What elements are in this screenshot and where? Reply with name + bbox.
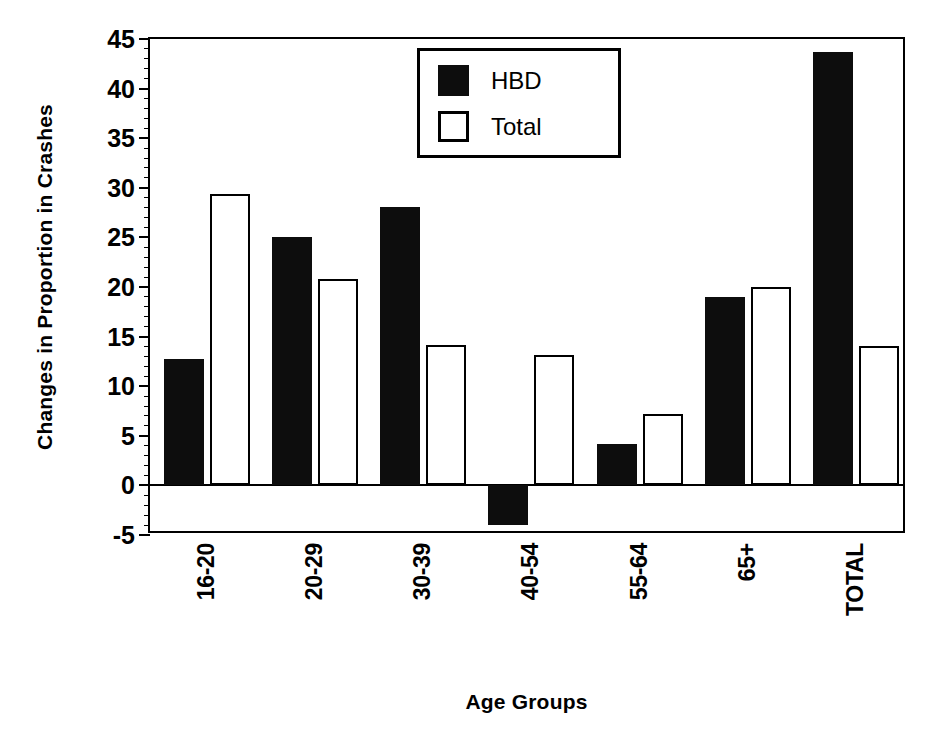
bar-hbd-40-54 bbox=[488, 485, 528, 525]
y-tick-label: 0 bbox=[121, 471, 135, 500]
x-tick-label-40-54: 40-54 bbox=[517, 543, 544, 683]
y-tick-major bbox=[139, 88, 150, 90]
bar-total-TOTAL bbox=[859, 346, 899, 486]
bar-hbd-65+ bbox=[705, 297, 745, 485]
y-tick-label: 25 bbox=[107, 223, 135, 252]
bar-hbd-20-29 bbox=[272, 237, 312, 485]
legend-swatch-total-icon bbox=[438, 111, 469, 142]
x-tick-label-55-64: 55-64 bbox=[626, 543, 653, 683]
bar-hbd-16-20 bbox=[164, 359, 204, 485]
x-axis-title: Age Groups bbox=[148, 690, 905, 714]
bar-hbd-30-39 bbox=[380, 207, 420, 486]
y-tick-label: 30 bbox=[107, 173, 135, 202]
y-tick-label: 40 bbox=[107, 74, 135, 103]
y-tick-label: -5 bbox=[113, 521, 135, 550]
y-tick-major bbox=[139, 236, 150, 238]
bar-hbd-TOTAL bbox=[813, 52, 853, 486]
x-tick-label-TOTAL: TOTAL bbox=[842, 543, 869, 683]
bar-total-55-64 bbox=[643, 414, 683, 485]
y-tick-label: 20 bbox=[107, 273, 135, 302]
y-axis-title: Changes in Proportion in Crashes bbox=[33, 27, 57, 527]
bar-total-40-54 bbox=[534, 355, 574, 485]
y-tick-major bbox=[139, 534, 150, 536]
legend-item-hbd: HBD bbox=[438, 65, 542, 96]
x-tick-label-20-29: 20-29 bbox=[301, 543, 328, 683]
bar-hbd-55-64 bbox=[597, 444, 637, 486]
bar-total-16-20 bbox=[210, 194, 250, 486]
legend-label-hbd: HBD bbox=[491, 67, 542, 95]
y-tick-label: 5 bbox=[121, 421, 135, 450]
x-tick-label-30-39: 30-39 bbox=[409, 543, 436, 683]
legend-item-total: Total bbox=[438, 111, 542, 142]
y-tick-major bbox=[139, 336, 150, 338]
y-tick-label: 10 bbox=[107, 372, 135, 401]
y-tick-label: 35 bbox=[107, 124, 135, 153]
legend-label-total: Total bbox=[491, 113, 542, 141]
x-tick-label-65+: 65+ bbox=[734, 543, 761, 683]
bar-total-65+ bbox=[751, 287, 791, 485]
y-tick-label: 45 bbox=[107, 25, 135, 54]
chart-legend: HBD Total bbox=[417, 48, 621, 158]
y-tick-major bbox=[139, 385, 150, 387]
bar-chart-figure: Changes in Proportion in Crashes 4540353… bbox=[0, 0, 930, 740]
y-tick-major bbox=[139, 137, 150, 139]
bar-total-20-29 bbox=[318, 279, 358, 485]
y-tick-major bbox=[139, 38, 150, 40]
x-tick-label-16-20: 16-20 bbox=[193, 543, 220, 683]
y-tick-major bbox=[139, 187, 150, 189]
y-tick-major bbox=[139, 484, 150, 486]
bar-total-30-39 bbox=[426, 345, 466, 486]
y-tick-label: 15 bbox=[107, 322, 135, 351]
y-tick-major bbox=[139, 435, 150, 437]
legend-swatch-hbd-icon bbox=[438, 65, 469, 96]
y-tick-major bbox=[139, 286, 150, 288]
